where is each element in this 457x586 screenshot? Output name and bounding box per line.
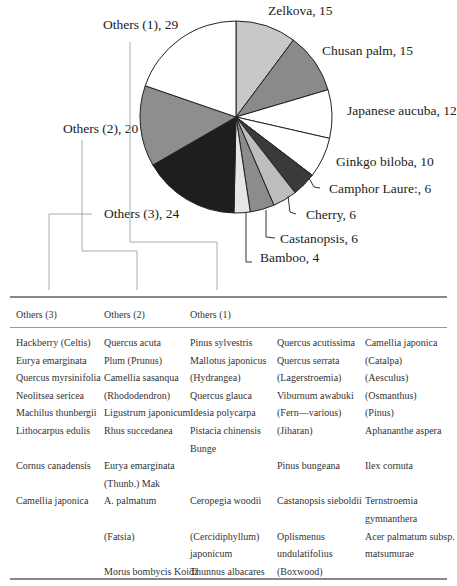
table-cell: (Osmanthus)	[365, 387, 455, 405]
table-cell: Ilex cornuta	[365, 457, 455, 475]
table-cell: Eurya emarginata	[104, 457, 198, 475]
table-cell: Bunge	[190, 440, 266, 458]
table-cell: Camellia japonica	[365, 334, 455, 352]
table-cell: (Pinus)	[365, 404, 455, 422]
table-cell: Hackberry (Celtis)	[16, 334, 101, 352]
label-others-2: Others (2), 20	[63, 121, 139, 136]
label-camphor-laurel: Camphor Laure:, 6	[329, 181, 432, 196]
table-cell	[104, 440, 198, 458]
table-cell	[190, 457, 266, 475]
table-cell	[277, 475, 362, 493]
table-cell: Pinus sylvestris	[190, 334, 266, 352]
table-cell: Quercus acuta	[104, 334, 198, 352]
table-cell: A. palmatum	[104, 492, 198, 510]
table-cell: Pinus bungeana	[277, 457, 362, 475]
table-cell: Ligustrum japonicum	[104, 404, 198, 422]
table-cell: Castanopsis sieboldii	[277, 492, 362, 510]
table-cell	[16, 440, 101, 458]
table-cell: japonicum	[190, 545, 266, 563]
label-japanese-aucuba: Japanese aucuba, 12	[347, 103, 457, 118]
label-others-1: Others (1), 29	[103, 17, 179, 32]
table-top-rule	[10, 296, 447, 298]
table-cell: Quercus glauca	[190, 387, 266, 405]
pie-chart: Zelkova, 15 Chusan palm, 15 Japanese auc…	[0, 0, 457, 290]
label-zelkova: Zelkova, 15	[268, 3, 333, 18]
table-cell: (Aesculus)	[365, 369, 455, 387]
table-header-rule	[10, 327, 447, 328]
label-others-3: Others (3), 24	[104, 206, 180, 221]
table-cell: (Catalpa)	[365, 352, 455, 370]
table-bottom-rule	[10, 578, 447, 580]
label-cherry: Cherry, 6	[306, 207, 356, 222]
table-cell: Viburnum awabuki	[277, 387, 362, 405]
table-cell: (Cercidiphyllum)	[190, 528, 266, 546]
table-cell: Cornus canadensis	[16, 457, 101, 475]
table-column-others-1c: Camellia japonica(Catalpa)(Aesculus)(Osm…	[365, 334, 455, 580]
table-cell: Ceropegia woodii	[190, 492, 266, 510]
table-cell	[277, 510, 362, 528]
table-cell: Quercus acutissima	[277, 334, 362, 352]
pie-slices	[140, 21, 332, 213]
table-cell: (Thunb.) Mak	[104, 475, 198, 493]
table-cell	[277, 440, 362, 458]
label-ginkgo-biloba: Ginkgo biloba, 10	[336, 154, 434, 169]
label-castanopsis: Castanopsis, 6	[280, 231, 358, 246]
table-cell: Lithocarpus edulis	[16, 422, 101, 440]
table-cell: Oplismenus	[277, 528, 362, 546]
table-cell: Ternstroemia	[365, 492, 455, 510]
table-cell	[104, 545, 198, 563]
table-cell: (Fatsia)	[104, 528, 198, 546]
header-others-2: Others (2)	[104, 309, 145, 320]
table-column-others-1b: Quercus acutissimaQuercus serrata(Lagers…	[277, 334, 362, 580]
table-cell	[365, 475, 455, 493]
table-cell: Pistacia chinensis	[190, 422, 266, 440]
table-cell	[16, 475, 101, 493]
table-cell: Aphananthe aspera	[365, 422, 455, 440]
table-cell: Mallotus japonicus	[190, 352, 266, 370]
table-cell	[190, 475, 266, 493]
table-cell: (Fern—various)	[277, 404, 362, 422]
table-cell: (Hydrangea)	[190, 369, 266, 387]
table-cell	[365, 440, 455, 458]
table-cell: Acer palmatum subsp.	[365, 528, 455, 546]
label-bamboo: Bamboo, 4	[260, 250, 319, 265]
table-cell: gymnanthera	[365, 510, 455, 528]
table-cell: Eurya emarginata	[16, 352, 101, 370]
table-cell: matsumurae	[365, 545, 455, 563]
table-cell: undulatifolius	[277, 545, 362, 563]
table-cell: Camellia japonica	[16, 492, 101, 510]
table-cell: (Rhododendron)	[104, 387, 198, 405]
table-cell: (Jiharan)	[277, 422, 362, 440]
header-others-1: Others (1)	[190, 309, 231, 320]
table-cell: (Lagerstroemia)	[277, 369, 362, 387]
label-chusan-palm: Chusan palm, 15	[322, 43, 413, 58]
table-cell: Plum (Prunus)	[104, 352, 198, 370]
table-cell: Machilus thunbergii	[16, 404, 101, 422]
table-column-others-3: Hackberry (Celtis)Eurya emarginataQuercu…	[16, 334, 101, 510]
table-cell	[190, 510, 266, 528]
table-column-others-1a: Pinus sylvestrisMallotus japonicus(Hydra…	[190, 334, 266, 580]
table-cell: Neolitsea sericea	[16, 387, 101, 405]
header-others-3: Others (3)	[16, 309, 57, 320]
table-cell: Quercus serrata	[277, 352, 362, 370]
table-column-others-2: Quercus acutaPlum (Prunus)Camellia sasan…	[104, 334, 198, 580]
table-cell: Camellia sasanqua	[104, 369, 198, 387]
table-cell	[104, 510, 198, 528]
table-cell: Idesia polycarpa	[190, 404, 266, 422]
table-cell: Quercus myrsinifolia	[16, 369, 101, 387]
table-cell: Rhus succedanea	[104, 422, 198, 440]
